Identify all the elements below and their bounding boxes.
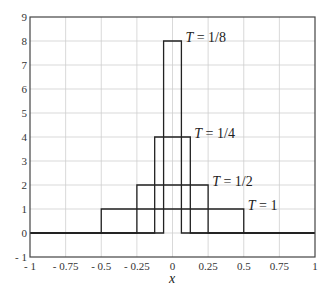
y-tick-label: 6 [22,83,28,95]
y-tick-label: 4 [22,131,28,143]
y-tick-label: 2 [22,179,28,191]
x-tick-label: - 0.5 [91,260,112,272]
x-tick-label: 0.25 [199,260,219,272]
x-tick-label: - 0.25 [124,260,150,272]
annotation-label: T = 1 [248,198,278,213]
annotation-label: T = 1/2 [212,174,253,189]
y-tick-label: 9 [22,11,28,23]
chart: - 1- 0.75- 0.5- 0.2500.250.50.751 - 1012… [0,0,336,297]
x-tick-label: 0.5 [237,260,251,272]
y-tick-label: 5 [22,107,28,119]
x-tick-label: - 0.75 [53,260,79,272]
x-axis-label: x [168,271,176,286]
y-tick-label: 3 [22,155,28,167]
y-tick-label: 1 [22,203,28,215]
y-tick-label: 0 [22,227,28,239]
y-tick-label: 8 [22,35,28,47]
y-tick-labels: - 10123456789 [15,11,27,263]
x-tick-label: 1 [312,260,318,272]
annotation-label: T = 1/4 [194,126,235,141]
annotation-label: T = 1/8 [185,30,226,45]
y-tick-label: - 1 [15,251,27,263]
y-tick-label: 7 [22,59,28,71]
x-tick-label: 0.75 [270,260,290,272]
